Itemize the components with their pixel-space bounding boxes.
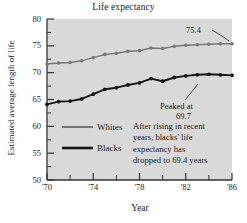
y-tick-label: 65	[19, 94, 41, 104]
data-point	[138, 81, 142, 85]
data-point	[126, 83, 130, 87]
x-tick-label: '78	[127, 182, 153, 192]
data-point	[161, 79, 165, 83]
data-point	[184, 74, 188, 78]
y-tick-label: 55	[19, 148, 41, 158]
data-point	[68, 61, 72, 65]
x-tick-label: '82	[173, 182, 199, 192]
data-point	[195, 73, 199, 77]
data-point	[45, 62, 49, 66]
data-point	[45, 102, 49, 106]
chart-note-line: After rising in recent	[133, 121, 207, 132]
chart-note-text: After rising in recentyears, blacks' lif…	[133, 121, 207, 166]
data-point	[219, 42, 223, 46]
data-point	[230, 73, 234, 77]
data-point	[149, 46, 153, 50]
data-point	[115, 52, 119, 56]
data-point	[103, 87, 107, 91]
chart-note-line: expectancy has	[133, 144, 207, 155]
data-point	[91, 56, 95, 60]
data-point	[161, 47, 165, 51]
y-tick-label: 70	[19, 67, 41, 77]
data-point	[68, 99, 72, 103]
chart-note-line: years, blacks' life	[133, 132, 207, 143]
data-point	[57, 61, 61, 65]
data-point	[149, 77, 153, 81]
data-point	[91, 92, 95, 96]
data-point	[184, 44, 188, 48]
data-point	[103, 53, 107, 57]
annotation-black-peak-line1: Peaked at	[160, 101, 193, 111]
data-point	[207, 72, 211, 76]
data-point	[196, 43, 200, 47]
legend-label-whites: Whites	[97, 122, 123, 132]
life-expectancy-chart: Life expectancy Estimated average length…	[0, 0, 247, 223]
data-point	[126, 49, 130, 53]
x-tick-label: '86	[219, 182, 245, 192]
data-point	[138, 49, 142, 53]
data-point	[80, 59, 84, 63]
data-point	[57, 100, 61, 104]
data-point	[172, 76, 176, 80]
legend-label-blacks: Blacks	[97, 143, 122, 153]
data-point	[219, 73, 223, 77]
annotation-white-endpoint-value: 75.4	[186, 25, 201, 35]
annotation-black-peak-line2: 69.7	[176, 111, 191, 121]
x-tick-label: '70	[34, 182, 60, 192]
y-tick-label: 60	[19, 121, 41, 131]
y-tick-label: 80	[19, 14, 41, 24]
data-point	[207, 42, 211, 46]
data-point	[172, 45, 176, 49]
y-tick-label: 75	[19, 40, 41, 50]
x-tick-label: '74	[80, 182, 106, 192]
data-point	[114, 86, 118, 90]
chart-note-line: dropped to 69.4 years	[133, 155, 207, 166]
data-point	[230, 42, 234, 46]
data-point	[80, 97, 84, 101]
